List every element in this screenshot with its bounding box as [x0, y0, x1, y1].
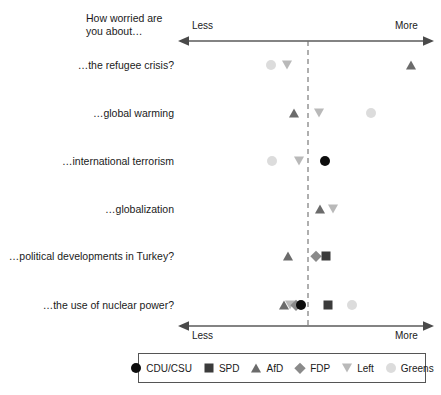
chart-canvas: How worried are you about… Less More Les…: [0, 0, 441, 395]
legend-label-left: Left: [357, 363, 374, 374]
data-point-afd: [283, 252, 293, 261]
legend-swatch-left: [342, 364, 352, 373]
data-point-left: [314, 109, 324, 118]
legend-swatch-greens: [386, 363, 396, 373]
legend-label-spd: SPD: [219, 363, 240, 374]
legend-item-greens[interactable]: Greens: [385, 362, 434, 374]
legend-marker-fdp-icon: [294, 362, 306, 374]
data-point-afd: [406, 61, 416, 70]
data-point-left: [294, 157, 304, 166]
data-point-afd: [289, 109, 299, 118]
legend-item-cdu[interactable]: CDU/CSU: [130, 362, 192, 374]
legend-swatch-cdu: [131, 363, 141, 373]
data-point-afd: [315, 205, 325, 214]
legend-box: CDU/CSUSPDAfDFDPLeftGreens: [138, 353, 426, 383]
data-point-left: [328, 205, 338, 214]
legend-swatch-fdp: [295, 363, 306, 374]
axis-bottom-less-label: Less: [192, 330, 213, 341]
legend-item-fdp[interactable]: FDP: [294, 362, 330, 374]
data-point-spd: [322, 252, 331, 261]
row-label: …globalization: [0, 203, 180, 215]
legend-marker-afd-icon: [250, 362, 262, 374]
axis-top-more-label: More: [395, 20, 418, 31]
row-label: …the refugee crisis?: [0, 59, 180, 71]
legend-marker-cdu-icon: [130, 362, 142, 374]
chart-question-title: How worried are you about…: [86, 12, 186, 38]
data-point-greens: [267, 156, 277, 166]
row-label: …the use of nuclear power?: [0, 299, 180, 311]
legend-label-fdp: FDP: [310, 363, 330, 374]
legend-marker-left-icon: [341, 362, 353, 374]
legend-label-cdu: CDU/CSU: [146, 363, 192, 374]
data-point-greens: [347, 300, 357, 310]
legend-marker-greens-icon: [385, 362, 397, 374]
data-point-cdu: [320, 156, 330, 166]
legend-swatch-afd: [251, 364, 261, 373]
legend-label-greens: Greens: [401, 363, 434, 374]
row-label: …political developments in Turkey?: [0, 250, 180, 262]
axis-top-less-label: Less: [192, 20, 213, 31]
legend-item-afd[interactable]: AfD: [250, 362, 283, 374]
legend-items: CDU/CSUSPDAfDFDPLeftGreens: [130, 362, 433, 374]
row-label: …international terrorism: [0, 155, 180, 167]
legend-marker-spd-icon: [203, 362, 215, 374]
legend-label-afd: AfD: [266, 363, 283, 374]
data-point-cdu: [296, 300, 306, 310]
data-point-spd: [324, 301, 333, 310]
legend-swatch-spd: [204, 364, 213, 373]
data-point-fdp: [311, 251, 322, 262]
legend-item-left[interactable]: Left: [341, 362, 374, 374]
data-point-greens: [366, 108, 376, 118]
top-axis: [178, 36, 434, 46]
legend-item-spd[interactable]: SPD: [203, 362, 240, 374]
row-label: …global warming: [0, 107, 180, 119]
data-point-greens: [266, 60, 276, 70]
data-point-left: [282, 61, 292, 70]
axis-bottom-more-label: More: [395, 330, 418, 341]
